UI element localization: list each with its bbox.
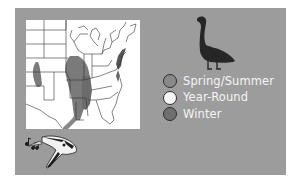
goose-silhouette-icon <box>193 13 237 70</box>
range-map <box>26 20 140 129</box>
legend-item-spring-summer: Spring/Summer <box>163 73 274 90</box>
year-round-swatch-icon <box>163 91 177 105</box>
legend: Spring/Summer Year-Round Winter <box>163 73 274 123</box>
legend-label: Year-Round <box>183 91 248 104</box>
spring-summer-swatch-icon <box>163 74 177 88</box>
legend-item-year-round: Year-Round <box>163 90 274 107</box>
legend-label: Spring/Summer <box>183 75 274 88</box>
winter-swatch-icon <box>163 107 177 121</box>
legend-label: Winter <box>183 108 222 121</box>
legend-item-winter: Winter <box>163 106 274 123</box>
eastern-us-map-graphic <box>26 20 140 129</box>
singing-bird-icon <box>24 132 80 170</box>
